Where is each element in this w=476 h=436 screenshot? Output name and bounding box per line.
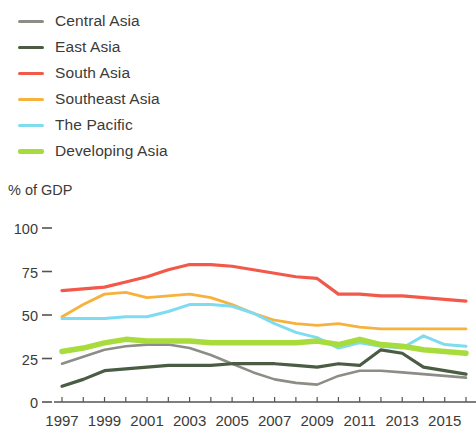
legend-swatch-the-pacific (18, 124, 44, 127)
series-line-south-asia (62, 265, 466, 302)
x-axis-tick-label: 2013 (386, 413, 419, 428)
legend-swatch-south-asia (18, 72, 44, 75)
x-axis-ticks (62, 397, 466, 402)
chart-canvas (0, 205, 476, 410)
legend-item-south-asia: South Asia (18, 60, 318, 86)
x-axis-tick-label: 2015 (428, 413, 461, 428)
legend-swatch-developing-asia (18, 149, 44, 154)
legend-item-southeast-asia: Southeast Asia (18, 86, 318, 112)
legend-item-developing-asia: Developing Asia (18, 138, 318, 164)
x-axis-tick-label: 2003 (173, 413, 206, 428)
chart-figure: Central Asia East Asia South Asia Southe… (0, 0, 476, 436)
legend-label-southeast-asia: Southeast Asia (55, 91, 160, 107)
x-axis-tick-label: 2001 (130, 413, 163, 428)
legend-item-the-pacific: The Pacific (18, 112, 318, 138)
series-line-southeast-asia (62, 292, 466, 329)
legend-label-east-asia: East Asia (55, 39, 121, 55)
plot-area: 1007550250 (0, 205, 476, 410)
y-axis-tick-label: 50 (0, 309, 38, 324)
legend-label-central-asia: Central Asia (55, 13, 140, 29)
x-axis-tick-label: 2011 (344, 413, 376, 428)
legend-label-the-pacific: The Pacific (55, 117, 133, 133)
x-axis-tick-label: 2005 (215, 413, 248, 428)
y-axis-tick-label: 0 (0, 396, 38, 411)
y-axis-tick-label: 25 (0, 353, 38, 368)
x-axis-tick-label: 1997 (45, 413, 78, 428)
legend-label-developing-asia: Developing Asia (55, 143, 168, 159)
legend-item-east-asia: East Asia (18, 34, 318, 60)
data-series-group (62, 265, 466, 387)
y-axis-tick-label: 75 (0, 266, 38, 281)
x-axis-tick-label: 1999 (88, 413, 121, 428)
y-axis-unit-label: % of GDP (8, 183, 72, 198)
legend-label-south-asia: South Asia (55, 65, 130, 81)
legend-item-central-asia: Central Asia (18, 8, 318, 34)
legend-swatch-east-asia (18, 46, 44, 49)
legend-swatch-central-asia (18, 20, 44, 23)
series-line-east-asia (62, 350, 466, 387)
y-axis-tick-label: 100 (0, 222, 38, 237)
chart-legend: Central Asia East Asia South Asia Southe… (18, 8, 318, 164)
legend-swatch-southeast-asia (18, 98, 44, 101)
y-axis-ticks (42, 228, 52, 402)
x-axis-tick-label: 2007 (258, 413, 291, 428)
x-axis-tick-label: 2009 (300, 413, 333, 428)
x-axis-tick-labels: 1997199920012003200520072009201120132015 (0, 410, 476, 436)
